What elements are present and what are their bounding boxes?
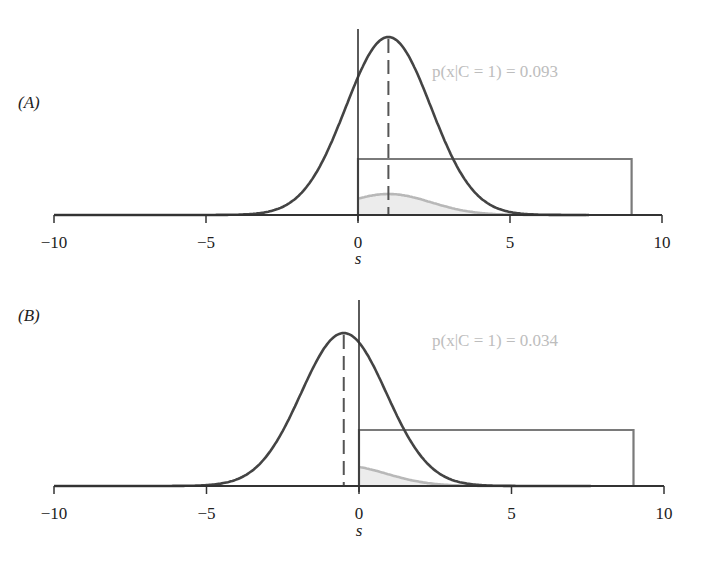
gaussian-curve — [54, 333, 591, 486]
x-tick-label: −5 — [197, 233, 215, 252]
panel-a: (A) −10−50510 s p(x|C = 1) = 0.093 — [18, 29, 671, 268]
x-tick-label: −10 — [41, 233, 68, 252]
panel-label: (A) — [18, 93, 40, 112]
x-tick-label: −10 — [41, 504, 68, 523]
probability-annotation: p(x|C = 1) = 0.093 — [432, 62, 558, 81]
x-tick-label: 5 — [506, 233, 515, 252]
x-tick-label: −5 — [197, 504, 215, 523]
probability-annotation: p(x|C = 1) = 0.034 — [432, 331, 558, 350]
panel-label: (B) — [18, 306, 40, 325]
x-tick-label: 10 — [656, 504, 673, 523]
x-ticks: −10−50510 — [41, 215, 671, 252]
x-axis-label: s — [355, 249, 362, 268]
x-axis-label: s — [356, 521, 363, 540]
panel-b: (B) −10−50510 s p(x|C = 1) = 0.034 — [18, 300, 673, 540]
x-tick-label: 5 — [507, 504, 516, 523]
x-tick-label: 10 — [654, 233, 671, 252]
figure: (A) −10−50510 s p(x|C = 1) = 0.093 (B) −… — [0, 0, 705, 573]
x-ticks: −10−50510 — [41, 486, 673, 523]
